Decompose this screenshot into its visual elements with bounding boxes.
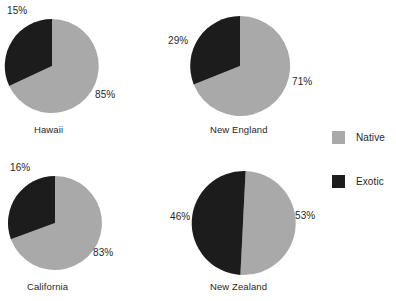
new-zealand-slice-native	[240, 171, 295, 275]
panel-new-zealand: 46% 53% New Zealand	[190, 157, 310, 282]
california-native-pct: 83%	[93, 247, 113, 258]
panel-new-england: 29% 71% New England	[188, 0, 303, 125]
hawaii-title: Hawaii	[34, 124, 63, 135]
legend-item-native: Native	[332, 130, 385, 144]
legend-label-native: Native	[356, 132, 385, 143]
panel-california: 16% 83% California	[0, 157, 115, 282]
hawaii-exotic-pct: 15%	[7, 5, 27, 16]
hawaii-native-pct: 85%	[95, 89, 115, 100]
panel-hawaii: 15% 85% Hawaii	[0, 0, 110, 125]
new-zealand-title: New Zealand	[210, 281, 267, 292]
legend-item-exotic: Exotic	[332, 174, 385, 188]
pie-chart-figure: 15% 85% Hawaii 29% 71% New England 16% 8…	[0, 0, 396, 301]
new-england-native-pct: 71%	[292, 76, 312, 87]
chart-legend: Native Exotic	[332, 130, 385, 218]
hawaii-pie	[0, 0, 110, 125]
new-england-exotic-pct: 29%	[168, 35, 188, 46]
new-england-title: New England	[210, 124, 268, 135]
new-zealand-slice-exotic	[192, 171, 246, 275]
new-zealand-pie	[190, 157, 310, 282]
legend-label-exotic: Exotic	[356, 176, 384, 187]
new-england-pie	[188, 0, 303, 125]
legend-swatch-exotic-icon	[332, 175, 345, 188]
california-title: California	[27, 281, 68, 292]
new-zealand-native-pct: 53%	[295, 210, 315, 221]
california-exotic-pct: 16%	[10, 162, 30, 173]
california-pie	[0, 157, 115, 282]
legend-swatch-native-icon	[332, 131, 345, 144]
new-zealand-exotic-pct: 46%	[170, 211, 190, 222]
